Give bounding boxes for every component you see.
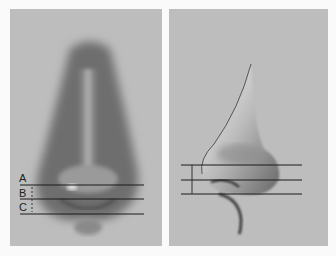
label-a: A bbox=[19, 173, 26, 184]
profile-view-panel bbox=[169, 9, 328, 246]
profile-nose-illustration bbox=[169, 9, 328, 246]
label-c: C bbox=[19, 202, 27, 213]
front-nose-illustration bbox=[10, 9, 162, 246]
label-b: B bbox=[19, 188, 26, 199]
front-view-panel: A B C bbox=[10, 9, 162, 246]
